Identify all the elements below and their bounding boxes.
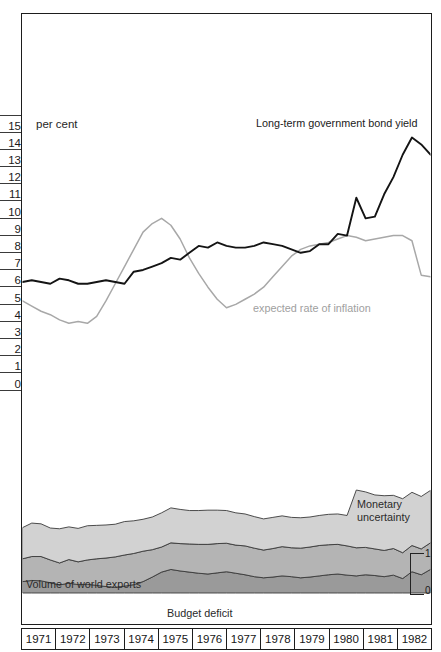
- year-cell-1981: 1981: [364, 629, 398, 649]
- year-cell-1972: 1972: [56, 629, 90, 649]
- year-cell-1971: 1971: [22, 629, 56, 649]
- right-scale-bracket: [410, 553, 424, 595]
- year-cell-1980: 1980: [330, 629, 364, 649]
- year-cell-1979: 1979: [295, 629, 329, 649]
- year-cell-1978: 1978: [261, 629, 295, 649]
- bond-yield-label: Long-term government bond yield: [256, 117, 417, 129]
- monetary-uncertainty-label: Monetary uncertainty: [357, 498, 410, 523]
- monetary-uncertainty-line2: uncertainty: [357, 511, 410, 524]
- right-scale-high: 1: [425, 548, 431, 559]
- budget-deficit-label: Budget deficit: [167, 607, 232, 619]
- year-cell-1975: 1975: [159, 629, 193, 649]
- chart-figure: 1514131211109876543210 per cent Long-ter…: [0, 0, 441, 652]
- year-cell-1976: 1976: [193, 629, 227, 649]
- right-scale-low: 0: [425, 585, 431, 596]
- world-exports-label: Volume of world exports: [26, 578, 141, 590]
- year-cell-1974: 1974: [125, 629, 159, 649]
- year-cell-1973: 1973: [90, 629, 124, 649]
- inflation-label: expected rate of inflation: [253, 302, 371, 314]
- year-cell-1977: 1977: [227, 629, 261, 649]
- line-long-term-government-bond-yield: [23, 138, 431, 284]
- x-axis-year-band: 1971197219731974197519761977197819791980…: [21, 628, 432, 650]
- year-cell-1982: 1982: [398, 629, 431, 649]
- chart-canvas: [0, 0, 441, 652]
- monetary-uncertainty-line1: Monetary: [357, 498, 410, 511]
